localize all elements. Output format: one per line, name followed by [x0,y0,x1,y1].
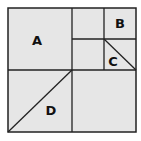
label-c: C [108,54,118,69]
label-b: B [115,16,125,31]
label-a: A [32,33,42,48]
label-d: D [46,103,57,118]
square-subdivision-diagram: A B C D [0,0,141,141]
